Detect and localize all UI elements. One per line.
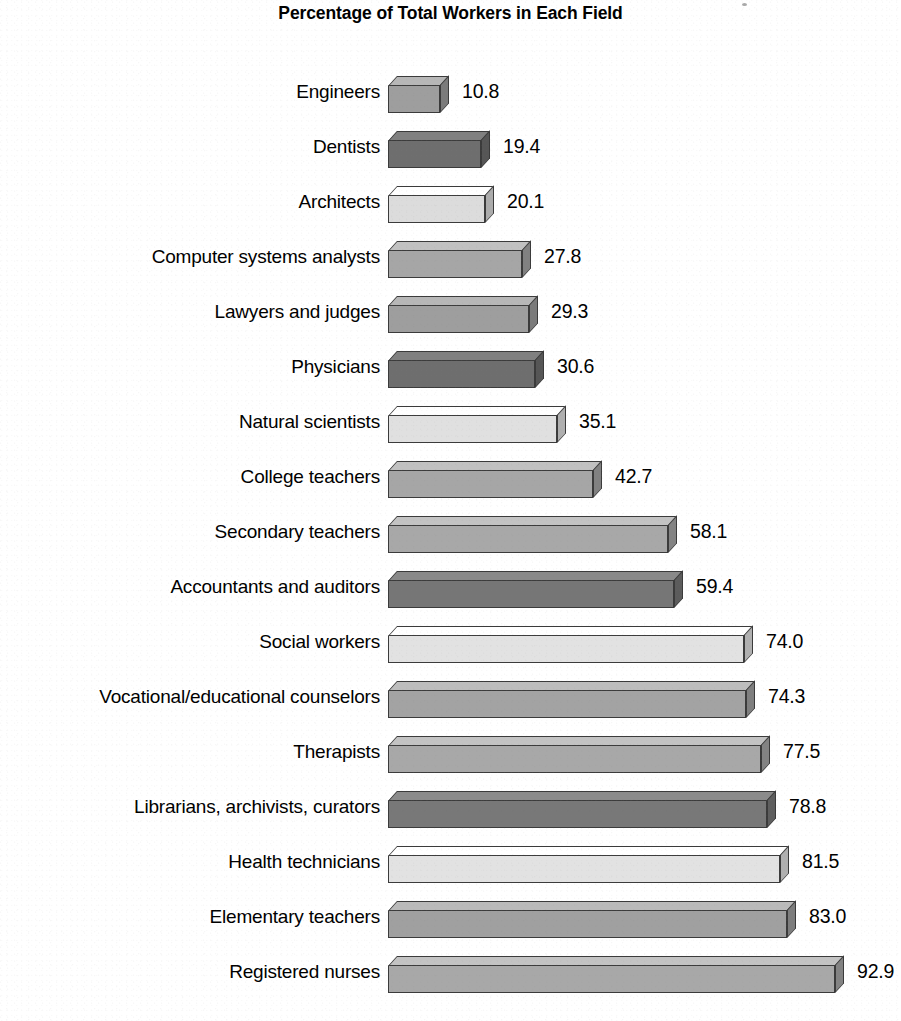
- value-label: 78.8: [789, 779, 826, 834]
- value-label: 42.7: [615, 449, 652, 504]
- bar-front-face: [388, 580, 674, 608]
- bar: [388, 461, 602, 501]
- bar: [388, 846, 789, 886]
- category-label: Social workers: [0, 614, 380, 669]
- value-label: 74.0: [766, 614, 803, 669]
- chart-row: Social workers74.0: [0, 614, 901, 669]
- value-label: 92.9: [857, 944, 894, 999]
- bar-front-face: [388, 635, 744, 663]
- bar-chart: Percentage of Total Workers in Each Fiel…: [0, 0, 901, 1021]
- category-label: College teachers: [0, 449, 380, 504]
- bar-top-face: [388, 956, 844, 966]
- category-label: Computer systems analysts: [0, 229, 380, 284]
- bar: [388, 351, 544, 391]
- chart-row: Therapists77.5: [0, 724, 901, 779]
- category-label: Librarians, archivists, curators: [0, 779, 380, 834]
- chart-row: Accountants and auditors59.4: [0, 559, 901, 614]
- bar: [388, 791, 776, 831]
- bar-front-face: [388, 470, 593, 498]
- category-label: Elementary teachers: [0, 889, 380, 944]
- bar-front-face: [388, 855, 780, 883]
- bar-front-face: [388, 85, 440, 113]
- category-label: Lawyers and judges: [0, 284, 380, 339]
- bar-top-face: [388, 131, 490, 141]
- bar-front-face: [388, 415, 557, 443]
- category-label: Registered nurses: [0, 944, 380, 999]
- chart-row: Secondary teachers58.1: [0, 504, 901, 559]
- bar-front-face: [388, 305, 529, 333]
- bar-front-face: [388, 745, 761, 773]
- chart-row: Engineers10.8: [0, 64, 901, 119]
- bar: [388, 516, 677, 556]
- value-label: 29.3: [551, 284, 588, 339]
- value-label: 81.5: [802, 834, 839, 889]
- value-label: 59.4: [696, 559, 733, 614]
- value-label: 27.8: [544, 229, 581, 284]
- value-label: 35.1: [579, 394, 616, 449]
- category-label: Natural scientists: [0, 394, 380, 449]
- chart-row: Computer systems analysts27.8: [0, 229, 901, 284]
- value-label: 74.3: [768, 669, 805, 724]
- category-label: Dentists: [0, 119, 380, 174]
- bar-front-face: [388, 965, 835, 993]
- bar-top-face: [388, 681, 755, 691]
- bar: [388, 76, 449, 116]
- bar-top-face: [388, 406, 566, 416]
- bar-front-face: [388, 140, 481, 168]
- bar-front-face: [388, 690, 746, 718]
- bar-top-face: [388, 296, 538, 306]
- bar: [388, 406, 566, 446]
- bar-top-face: [388, 186, 494, 196]
- value-label: 83.0: [809, 889, 846, 944]
- category-label: Vocational/educational counselors: [0, 669, 380, 724]
- bar: [388, 736, 770, 776]
- chart-row: Librarians, archivists, curators78.8: [0, 779, 901, 834]
- category-label: Engineers: [0, 64, 380, 119]
- bar: [388, 241, 531, 281]
- chart-row: Health technicians81.5: [0, 834, 901, 889]
- category-label: Health technicians: [0, 834, 380, 889]
- bar-top-face: [388, 736, 770, 746]
- bar-top-face: [388, 241, 531, 251]
- bar-top-face: [388, 571, 683, 581]
- value-label: 30.6: [557, 339, 594, 394]
- value-label: 19.4: [503, 119, 540, 174]
- bar-top-face: [388, 846, 789, 856]
- bar: [388, 571, 683, 611]
- bar-top-face: [388, 901, 796, 911]
- bar: [388, 131, 490, 171]
- bar-top-face: [388, 626, 753, 636]
- chart-row: Registered nurses92.9: [0, 944, 901, 999]
- bar-front-face: [388, 250, 522, 278]
- bar: [388, 956, 844, 996]
- bar-front-face: [388, 910, 787, 938]
- bar-front-face: [388, 195, 485, 223]
- value-label: 77.5: [783, 724, 820, 779]
- category-label: Architects: [0, 174, 380, 229]
- category-label: Therapists: [0, 724, 380, 779]
- bar: [388, 681, 755, 721]
- bar: [388, 626, 753, 666]
- chart-title: Percentage of Total Workers in Each Fiel…: [0, 2, 901, 24]
- chart-row: Physicians30.6: [0, 339, 901, 394]
- chart-row: Lawyers and judges29.3: [0, 284, 901, 339]
- category-label: Secondary teachers: [0, 504, 380, 559]
- category-label: Accountants and auditors: [0, 559, 380, 614]
- value-label: 58.1: [690, 504, 727, 559]
- chart-row: Architects20.1: [0, 174, 901, 229]
- chart-row: Elementary teachers83.0: [0, 889, 901, 944]
- scan-artifact-speck: [742, 3, 747, 6]
- category-label: Physicians: [0, 339, 380, 394]
- bar-top-face: [388, 351, 544, 361]
- bar-front-face: [388, 525, 668, 553]
- chart-plot-area: Engineers10.8Dentists19.4Architects20.1C…: [0, 60, 901, 1021]
- bar: [388, 186, 494, 226]
- bar: [388, 296, 538, 336]
- chart-row: Natural scientists35.1: [0, 394, 901, 449]
- value-label: 10.8: [462, 64, 499, 119]
- bar-top-face: [388, 516, 677, 526]
- bar-front-face: [388, 800, 767, 828]
- bar-front-face: [388, 360, 535, 388]
- chart-row: College teachers42.7: [0, 449, 901, 504]
- bar-top-face: [388, 461, 602, 471]
